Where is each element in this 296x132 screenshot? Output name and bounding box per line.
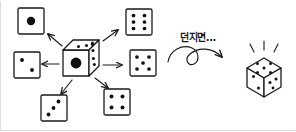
arrow-up-left xyxy=(48,34,62,46)
outcome-face-3 xyxy=(41,95,67,121)
result-die xyxy=(247,58,281,97)
outcome-face-1 xyxy=(18,8,44,34)
arrow-down-right xyxy=(95,78,108,88)
source-die xyxy=(63,40,99,76)
source-die-front-pip xyxy=(71,58,82,69)
dice-diagram: 던지면... xyxy=(0,0,296,132)
arrow-down-left xyxy=(61,80,72,94)
impact-lines xyxy=(250,41,278,52)
arrow-up-right xyxy=(103,30,118,41)
outcome-face-5 xyxy=(130,50,156,76)
throw-annotation-text: 던지면... xyxy=(180,33,216,43)
outcome-face-2 xyxy=(14,52,40,78)
outcome-face-4 xyxy=(104,89,130,115)
diagram-canvas xyxy=(0,0,296,132)
arrow-toss xyxy=(168,47,222,65)
outcome-face-6 xyxy=(126,9,152,35)
